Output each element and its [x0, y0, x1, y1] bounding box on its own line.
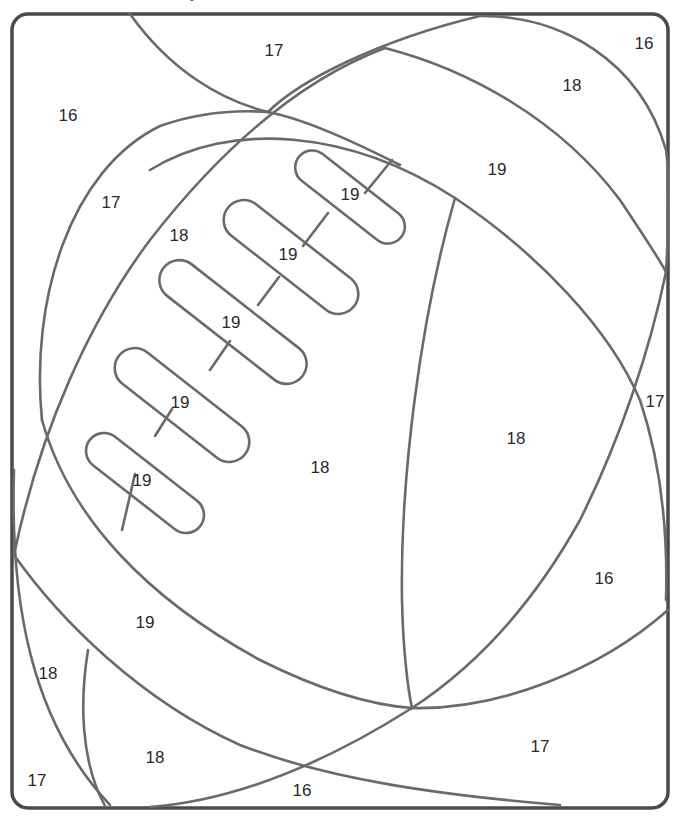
- football-drawing: y: [0, 0, 680, 822]
- region-number: 16: [59, 106, 78, 125]
- page-frame: [12, 14, 668, 808]
- region-number: 17: [102, 193, 121, 212]
- ball-seam-lower: [42, 420, 412, 708]
- ball-band-lower: [14, 555, 560, 805]
- region-number: 18: [39, 664, 58, 683]
- region-number: 18: [311, 458, 330, 477]
- region-number: 18: [170, 226, 189, 245]
- region-number: 17: [531, 737, 550, 756]
- outline-bottom-left-arc: [14, 470, 110, 805]
- region-number: 16: [293, 781, 312, 800]
- ball-band-upper: [385, 48, 666, 272]
- region-number: 18: [146, 748, 165, 767]
- region-number: 18: [563, 76, 582, 95]
- title-fragment: y: [190, 0, 198, 1]
- region-number: 19: [133, 471, 152, 490]
- region-number: 19: [279, 245, 298, 264]
- region-number: 19: [136, 613, 155, 632]
- outline-bottom-sweep: [150, 708, 412, 807]
- outline-left-sweep: [40, 111, 268, 420]
- region-number: 19: [171, 393, 190, 412]
- region-number: 19: [488, 160, 507, 179]
- region-number: 17: [265, 41, 284, 60]
- region-number: 18: [507, 429, 526, 448]
- ball-edge-lower-right: [412, 610, 668, 708]
- region-number: 19: [222, 313, 241, 332]
- outline-inner-left-arc: [83, 650, 105, 806]
- ball-edge-right: [412, 272, 666, 708]
- region-number: 16: [595, 569, 614, 588]
- region-number: 17: [28, 771, 47, 790]
- region-number: 17: [646, 392, 665, 411]
- laces: [79, 144, 412, 541]
- coloring-page: y: [0, 0, 680, 822]
- ball-center-seam: [402, 198, 455, 708]
- region-number: 19: [341, 185, 360, 204]
- outline-top-arc: [130, 14, 400, 165]
- region-number: 16: [635, 34, 654, 53]
